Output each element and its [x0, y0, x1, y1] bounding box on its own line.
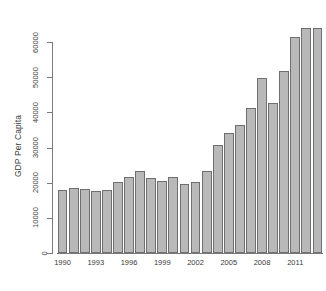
plot-area: [57, 20, 323, 253]
y-axis-tick-label: 60000: [8, 37, 46, 47]
x-axis-tick-label: 2011: [280, 258, 310, 267]
y-axis-tick: [47, 148, 52, 149]
bar: [301, 28, 311, 253]
y-axis-tick: [47, 183, 52, 184]
bar: [213, 145, 223, 253]
gdp-per-capita-bar-chart: GDP Per Capita 0100002000030000400005000…: [0, 0, 326, 291]
y-axis-tick-label-text: 20000: [31, 172, 40, 193]
y-axis-tick-label: 10000: [8, 213, 46, 223]
bar: [91, 191, 101, 253]
bar: [279, 71, 289, 254]
y-axis-tick: [47, 112, 52, 113]
bar: [168, 177, 178, 253]
x-axis-tick-label: 2002: [181, 258, 211, 267]
x-axis-tick-label: 2008: [247, 258, 277, 267]
bar: [191, 182, 201, 253]
x-axis-line: [57, 253, 323, 254]
y-axis-tick: [47, 42, 52, 43]
bar: [80, 189, 90, 253]
bar: [69, 188, 79, 253]
y-axis-tick-label: 40000: [8, 107, 46, 117]
x-axis-tick-label: 1993: [81, 258, 111, 267]
y-axis-tick-label: 50000: [8, 72, 46, 82]
y-axis-line: [52, 42, 53, 254]
y-axis-tick-label-text: 30000: [31, 137, 40, 158]
bar: [257, 78, 267, 253]
y-axis-tick-label: 30000: [8, 143, 46, 153]
bar: [180, 184, 190, 253]
bar: [202, 171, 212, 253]
x-axis-tick-label: 1996: [114, 258, 144, 267]
bar: [113, 182, 123, 253]
bar: [224, 133, 234, 253]
y-axis-tick-label: 0: [8, 248, 46, 258]
x-axis-tick-label: 1999: [147, 258, 177, 267]
y-axis-tick-label-text: 0: [39, 251, 48, 255]
bar: [146, 178, 156, 253]
y-axis-tick-label-text: 50000: [31, 67, 40, 88]
bar: [313, 28, 323, 253]
bar: [235, 125, 245, 253]
bar: [246, 108, 256, 253]
bar: [290, 37, 300, 253]
bar: [124, 177, 134, 253]
x-axis-tick-label: 1990: [48, 258, 78, 267]
bar: [135, 171, 145, 253]
x-axis-tick-label: 2005: [214, 258, 244, 267]
y-axis-tick-label: 20000: [8, 178, 46, 188]
bar: [157, 181, 167, 253]
bar: [58, 190, 68, 253]
y-axis-tick-label-text: 60000: [31, 32, 40, 53]
bar: [102, 190, 112, 253]
y-axis-tick: [47, 218, 52, 219]
bar: [268, 103, 278, 254]
y-axis-tick: [47, 77, 52, 78]
y-axis-tick-label-text: 10000: [31, 207, 40, 228]
y-axis-tick-label-text: 40000: [31, 102, 40, 123]
